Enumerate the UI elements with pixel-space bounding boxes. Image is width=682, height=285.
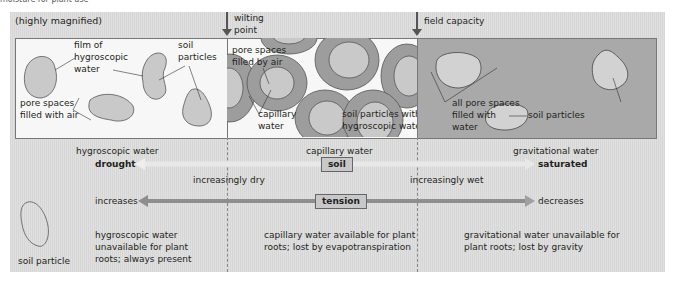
legend-soil-particle: soil particle	[18, 256, 70, 267]
label-film-2: hygroscopic	[74, 52, 128, 63]
soil-particle-legend-icon	[16, 200, 56, 250]
label-capillary-water-2: water	[258, 121, 284, 132]
desc-capillary-1: capillary water available for plant	[264, 230, 415, 241]
tension-axis-label: tension	[315, 194, 367, 209]
water-type-hygroscopic: hygroscopic water	[76, 146, 159, 157]
soil-axis-label: soil	[321, 157, 353, 172]
water-type-capillary: capillary water	[306, 146, 373, 157]
figure-caption: moisture for plant use	[0, 0, 89, 4]
label-gravitational-particles: soil particles	[528, 110, 585, 121]
wilting-point-label-1: wilting	[234, 13, 264, 24]
desc-hygroscopic-3: roots; always present	[95, 254, 192, 265]
label-capillary-water-1: capillary	[258, 109, 296, 120]
desc-capillary-2: roots; lost by evapotranspiration	[264, 242, 411, 253]
label-film-3: water	[74, 64, 100, 75]
wilting-point-label-2: point	[234, 25, 257, 36]
trend-increasingly-wet: increasingly wet	[410, 175, 483, 186]
label-particles-hygro-2: hygroscopic water	[342, 121, 425, 132]
label-particles-hygro-1: soil particles with	[342, 109, 421, 120]
label-pore-air-1: pore spaces	[20, 98, 74, 109]
field-capacity-label: field capacity	[424, 16, 484, 27]
magnification-note: (highly magnified)	[15, 15, 102, 26]
soil-right-saturated: saturated	[538, 159, 588, 170]
label-pore-water-2: filled with	[452, 110, 496, 121]
desc-gravitational-2: plant roots; lost by gravity	[464, 242, 583, 253]
water-type-gravitational: gravitational water	[513, 146, 599, 157]
desc-gravitational-1: gravitational water unavailable for	[464, 230, 620, 241]
tension-right-decreases: decreases	[538, 196, 584, 207]
label-pore-air2-1: pore spaces	[232, 45, 286, 56]
wilting-point-arrow-icon	[226, 12, 228, 30]
label-soil-particles-1: soil	[178, 40, 193, 51]
field-capacity-arrow-icon	[416, 12, 418, 30]
label-pore-water-1: all pore spaces	[452, 98, 520, 109]
label-film-1: film of	[74, 40, 102, 51]
label-pore-air-2: filled with air	[20, 110, 78, 121]
trend-increasingly-dry: increasingly dry	[193, 175, 265, 186]
label-soil-particles-2: particles	[178, 52, 217, 63]
label-pore-air2-2: filled by air	[232, 57, 282, 68]
tension-left-increases: increases	[95, 196, 138, 207]
label-pore-water-3: water	[452, 122, 478, 133]
desc-hygroscopic-2: unavailable for plant	[95, 242, 188, 253]
desc-hygroscopic-1: hygroscopic water	[95, 230, 178, 241]
soil-left-drought: drought	[95, 159, 136, 170]
